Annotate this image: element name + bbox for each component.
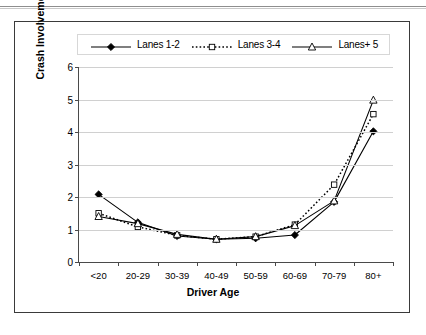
data-point-open-square [209, 44, 214, 49]
y-tick-mark [75, 67, 79, 68]
legend-label: Lanes 3-4 [238, 39, 281, 50]
y-tick-label: 6 [67, 62, 73, 73]
series-lanes-5 [95, 96, 377, 242]
legend-key [89, 39, 133, 51]
legend-item: Lanes 3-4 [190, 39, 281, 51]
x-tick-mark [354, 262, 355, 266]
x-tick-mark [79, 262, 80, 266]
y-tick-label: 4 [67, 127, 73, 138]
series-line [99, 100, 374, 239]
x-tick-label: 70-79 [322, 270, 346, 281]
y-tick-label: 3 [67, 159, 73, 170]
y-tick-mark [75, 197, 79, 198]
x-axis-title: Driver Age [15, 286, 411, 298]
legend-label: Lanes+ 5 [338, 39, 378, 50]
x-tick-label: 50-59 [243, 270, 267, 281]
x-tick-mark [236, 262, 237, 266]
y-tick-label: 1 [67, 224, 73, 235]
y-tick-mark [75, 165, 79, 166]
legend-key-glyph [290, 41, 334, 53]
data-point-open-square [331, 182, 336, 187]
legend-key [190, 39, 234, 51]
gridline [79, 165, 393, 166]
data-point-open-square [371, 111, 376, 116]
x-tick-mark [275, 262, 276, 266]
x-tick-mark [315, 262, 316, 266]
x-tick-label: 60-69 [283, 270, 307, 281]
x-tick-label: 30-39 [165, 270, 189, 281]
y-axis-title: Crash Involvement Ratio [34, 0, 46, 113]
legend-item: Lanes+ 5 [290, 39, 378, 51]
legend-item: Lanes 1-2 [89, 39, 180, 51]
x-tick-label: 80+ [365, 270, 381, 281]
gridline [79, 132, 393, 133]
y-tick-label: 0 [67, 257, 73, 268]
x-tick-label: <20 [91, 270, 107, 281]
y-tick-mark [75, 132, 79, 133]
gridline [79, 197, 393, 198]
y-tick-mark [75, 100, 79, 101]
y-tick-label: 2 [67, 192, 73, 203]
gridline [79, 100, 393, 101]
legend-key-glyph [89, 41, 133, 53]
x-tick-mark [197, 262, 198, 266]
x-tick-mark [158, 262, 159, 266]
data-point-filled-diamond [107, 43, 114, 50]
chart-legend: Lanes 1-2Lanes 3-4Lanes+ 5 [77, 34, 390, 55]
plot-area: 0123456<2020-2930-3940-4950-5960-6970-79… [79, 67, 393, 262]
gridline [79, 230, 393, 231]
page-top-rule [0, 6, 426, 7]
legend-key-glyph [190, 41, 234, 53]
legend-label: Lanes 1-2 [137, 39, 180, 50]
chart-frame: Lanes 1-2Lanes 3-4Lanes+ 5 Crash Involve… [14, 21, 410, 313]
x-tick-label: 20-29 [126, 270, 150, 281]
x-tick-mark [393, 262, 394, 266]
y-tick-label: 5 [67, 94, 73, 105]
chart-page: Lanes 1-2Lanes 3-4Lanes+ 5 Crash Involve… [0, 0, 426, 335]
x-tick-mark [118, 262, 119, 266]
x-tick-label: 40-49 [204, 270, 228, 281]
gridline [79, 67, 393, 68]
y-tick-mark [75, 230, 79, 231]
legend-key [290, 39, 334, 51]
page-top-rule-shadow [0, 8, 426, 9]
y-axis-title-container: Crash Involvement Ratio [42, 67, 56, 263]
